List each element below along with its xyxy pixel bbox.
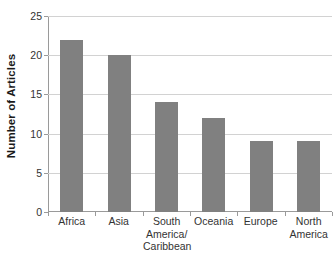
- y-tick-mark: [44, 173, 48, 174]
- y-tick-label: 25: [30, 10, 42, 22]
- bar: [60, 40, 83, 212]
- y-tick-mark: [44, 94, 48, 95]
- y-tick-label: 15: [30, 88, 42, 100]
- y-tick-mark: [44, 55, 48, 56]
- x-axis-label-line: America/: [143, 228, 190, 241]
- bar: [155, 102, 178, 212]
- x-axis-label-line: Caribbean: [143, 240, 190, 253]
- x-axis-label: SouthAmerica/Caribbean: [143, 215, 190, 253]
- y-axis-line: [48, 16, 49, 212]
- y-axis-title-text: Number of Articles: [5, 54, 17, 158]
- x-axis-label-line: Africa: [48, 215, 95, 228]
- gridline: [48, 94, 332, 95]
- y-axis-title: Number of Articles: [0, 0, 22, 212]
- bar: [202, 118, 225, 212]
- x-axis-label-line: Europe: [237, 215, 284, 228]
- bar: [250, 141, 273, 212]
- gridline: [48, 134, 332, 135]
- x-axis-label: Asia: [95, 215, 142, 228]
- x-axis-label-line: America: [285, 228, 332, 241]
- y-tick-label: 0: [36, 206, 42, 218]
- y-tick-label: 20: [30, 49, 42, 61]
- gridline: [48, 173, 332, 174]
- x-axis-label: Oceania: [190, 215, 237, 228]
- y-tick-mark: [44, 134, 48, 135]
- x-axis-label-line: North: [285, 215, 332, 228]
- plot-area: 0510152025: [48, 16, 332, 212]
- gridline: [48, 55, 332, 56]
- gridline: [48, 16, 332, 17]
- x-axis-label-line: South: [143, 215, 190, 228]
- bar-chart: Number of Articles 0510152025 AfricaAsia…: [0, 0, 335, 265]
- x-axis-label: Europe: [237, 215, 284, 228]
- x-axis-labels: AfricaAsiaSouthAmerica/CaribbeanOceaniaE…: [48, 215, 332, 263]
- y-tick-label: 5: [36, 167, 42, 179]
- bar: [297, 141, 320, 212]
- y-tick-mark: [44, 16, 48, 17]
- x-axis-label: Africa: [48, 215, 95, 228]
- x-axis-label-line: Oceania: [190, 215, 237, 228]
- x-axis-label: NorthAmerica: [285, 215, 332, 240]
- bar: [108, 55, 131, 212]
- y-tick-label: 10: [30, 128, 42, 140]
- x-axis-label-line: Asia: [95, 215, 142, 228]
